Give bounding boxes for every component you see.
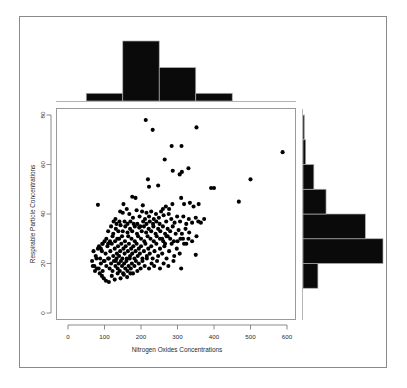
scatter-point bbox=[148, 237, 152, 241]
scatter-point bbox=[133, 239, 137, 243]
scatter-point bbox=[129, 237, 133, 241]
scatter-point bbox=[101, 242, 105, 246]
scatter-point bbox=[152, 249, 156, 253]
scatter-point bbox=[123, 239, 127, 243]
scatter-point bbox=[116, 271, 120, 275]
scatter-point bbox=[187, 231, 191, 235]
scatter-point bbox=[194, 216, 198, 220]
scatter-point bbox=[104, 264, 108, 268]
scatter-point bbox=[138, 252, 142, 256]
scatter-point bbox=[166, 264, 170, 268]
scatter-point bbox=[237, 200, 241, 204]
scatter-point bbox=[160, 237, 164, 241]
scatter-point bbox=[154, 212, 158, 216]
scatter-point bbox=[121, 202, 125, 206]
x-tick-label: 600 bbox=[282, 333, 293, 340]
scatter-point bbox=[179, 196, 183, 200]
scatter-point bbox=[125, 275, 129, 279]
scatter-point bbox=[94, 257, 98, 261]
x-tick-label: 300 bbox=[172, 333, 183, 340]
scatter-point bbox=[128, 271, 132, 275]
scatter-point bbox=[151, 222, 155, 226]
scatter-point bbox=[158, 222, 162, 226]
scatter-point bbox=[130, 229, 134, 233]
top-histogram-bar bbox=[196, 93, 233, 101]
scatter-point bbox=[158, 266, 162, 270]
scatter-point bbox=[197, 202, 201, 206]
scatter-point bbox=[158, 247, 162, 251]
scatter-point bbox=[106, 257, 110, 261]
scatter-point bbox=[178, 252, 182, 256]
scatter-point bbox=[99, 261, 103, 265]
scatter-point bbox=[178, 237, 182, 241]
scatter-point bbox=[188, 201, 192, 205]
scatter-point bbox=[119, 259, 123, 263]
scatter-point bbox=[179, 266, 183, 270]
scatter-point bbox=[109, 224, 113, 228]
scatter-point bbox=[147, 214, 151, 218]
scatter-point bbox=[248, 177, 252, 181]
scatter-point bbox=[113, 247, 117, 251]
scatter-point bbox=[115, 237, 119, 241]
scatter-point bbox=[133, 196, 137, 200]
scatter-point bbox=[130, 252, 134, 256]
scatter-point bbox=[139, 266, 143, 270]
scatter-point bbox=[106, 229, 110, 233]
right-histogram-bar bbox=[303, 115, 304, 140]
scatter-point bbox=[199, 221, 203, 225]
scatter-point bbox=[171, 169, 175, 173]
scatter-point bbox=[140, 259, 144, 263]
scatter-point bbox=[190, 221, 194, 225]
scatter-point bbox=[190, 239, 194, 243]
scatter-point bbox=[212, 186, 216, 190]
scatter-point bbox=[178, 219, 182, 223]
scatter-point bbox=[143, 264, 147, 268]
scatter-point bbox=[107, 280, 111, 284]
scatter-point bbox=[137, 214, 141, 218]
scatter-point bbox=[104, 252, 108, 256]
scatter-point bbox=[152, 239, 156, 243]
scatter-point bbox=[194, 253, 198, 257]
scatter-point bbox=[160, 252, 164, 256]
scatter-point bbox=[155, 234, 159, 238]
scatter-point bbox=[126, 234, 130, 238]
scatter-point bbox=[171, 259, 175, 263]
top-histogram-bar bbox=[86, 93, 123, 101]
scatter-plot-frame bbox=[57, 109, 296, 320]
scatter-point bbox=[148, 219, 152, 223]
figure-canvas: 0100200300400500600 Nitrogen Oxides Conc… bbox=[0, 0, 407, 388]
scatter-point bbox=[158, 229, 162, 233]
scatter-point bbox=[172, 239, 176, 243]
scatter-point bbox=[91, 264, 95, 268]
scatter-point bbox=[172, 254, 176, 258]
scatter-point bbox=[115, 257, 119, 261]
scatter-point bbox=[163, 242, 167, 246]
scatter-point bbox=[156, 254, 160, 258]
scatter-point bbox=[118, 249, 122, 253]
scatter-point bbox=[142, 239, 146, 243]
scatter-point bbox=[167, 249, 171, 253]
scatter-point bbox=[124, 259, 128, 263]
scatter-point bbox=[181, 214, 185, 218]
scatter-point bbox=[155, 259, 159, 263]
x-tick-label: 400 bbox=[209, 333, 220, 340]
scatter-point bbox=[146, 177, 150, 181]
scatter-point bbox=[144, 222, 148, 226]
scatter-point bbox=[164, 219, 168, 223]
scatter-point bbox=[116, 229, 120, 233]
scatter-point bbox=[137, 261, 141, 265]
scatter-point bbox=[135, 269, 139, 273]
scatter-point bbox=[175, 247, 179, 251]
x-tick-label: 200 bbox=[136, 333, 147, 340]
scatter-point bbox=[138, 224, 142, 228]
scatter-point bbox=[182, 242, 186, 246]
x-tick-label: 0 bbox=[66, 333, 70, 340]
scatter-point bbox=[149, 209, 153, 213]
scatter-point bbox=[147, 266, 151, 270]
scatter-point bbox=[128, 219, 132, 223]
scatter-point bbox=[93, 269, 97, 273]
scatter-point bbox=[144, 118, 148, 122]
scatter-point bbox=[161, 224, 165, 228]
scatter-point bbox=[177, 228, 181, 232]
right-histogram-bar bbox=[303, 264, 318, 289]
